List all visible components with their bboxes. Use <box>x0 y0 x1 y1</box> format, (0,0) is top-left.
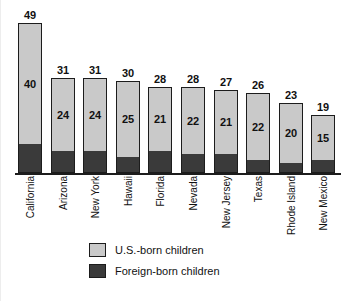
legend-swatch-foreign-born-icon <box>89 264 106 278</box>
bar-column: 2721 <box>214 76 238 173</box>
bar-total-label: 31 <box>89 64 101 76</box>
legend-label-foreign-born: Foreign-born children <box>115 265 220 278</box>
bar-column: 2622 <box>246 79 270 173</box>
x-axis-label-text: California <box>25 176 36 218</box>
x-axis-label-text: Rhode Island <box>286 176 297 235</box>
x-axis-label: Texas <box>246 176 270 238</box>
bar-stack: 24 <box>83 78 107 173</box>
bar-segment-us-born: 24 <box>52 79 74 151</box>
bar-segment-label-us-born: 24 <box>84 109 106 121</box>
bar-segment-label-us-born: 25 <box>117 113 139 125</box>
x-axis-label: New Jersey <box>214 176 238 238</box>
x-axis-label: Hawaii <box>116 176 140 238</box>
x-axis-label-text: Arizona <box>58 176 69 210</box>
bar-segment-label-us-born: 40 <box>19 78 41 90</box>
bar-total-label: 31 <box>57 64 69 76</box>
bar-column: 3124 <box>83 64 107 173</box>
legend-item-us-born: U.S.-born children <box>89 243 220 257</box>
bar-total-label: 23 <box>285 89 297 101</box>
bar-column: 4940 <box>18 9 42 173</box>
bar-segment-us-born: 40 <box>19 24 41 144</box>
bar-segment-foreign-born <box>312 160 334 172</box>
bar-stack: 21 <box>148 87 172 173</box>
x-axis-label: Arizona <box>51 176 75 238</box>
legend-label-us-born: U.S.-born children <box>115 244 204 257</box>
x-axis-line <box>15 173 341 175</box>
bar-segment-label-us-born: 20 <box>280 127 302 139</box>
bar-segment-foreign-born <box>19 144 41 172</box>
bar-stack: 24 <box>51 78 75 173</box>
bar-segment-label-us-born: 21 <box>149 113 171 125</box>
bar-segment-foreign-born <box>52 151 74 172</box>
bar-segment-label-us-born: 21 <box>215 116 237 128</box>
x-axis-label: Rhode Island <box>279 176 303 238</box>
bar-total-label: 27 <box>220 76 232 88</box>
bar-segment-us-born: 22 <box>247 94 269 160</box>
bar-segment-foreign-born <box>149 151 171 172</box>
bar-stack: 22 <box>246 93 270 173</box>
bar-total-label: 28 <box>154 73 166 85</box>
x-axis-label: New York <box>83 176 107 238</box>
chart-legend: U.S.-born children Foreign-born children <box>89 243 220 278</box>
bar-column: 3124 <box>51 64 75 173</box>
bar-stack: 15 <box>311 115 335 173</box>
x-axis-label-text: Hawaii <box>123 176 134 206</box>
bar-segment-label-us-born: 24 <box>52 109 74 121</box>
bar-segment-us-born: 21 <box>215 91 237 154</box>
plot-area: 4940312431243025282128222721262223201915 <box>15 12 339 173</box>
bar-segment-foreign-born <box>117 157 139 172</box>
bar-segment-us-born: 25 <box>117 82 139 157</box>
x-axis-label-text: Nevada <box>188 176 199 210</box>
bar-stack: 21 <box>214 90 238 173</box>
bar-column: 2821 <box>148 73 172 173</box>
stacked-bar-chart: 4940312431243025282128222721262223201915… <box>0 0 350 301</box>
bar-segment-foreign-born <box>280 163 302 172</box>
bar-segment-foreign-born <box>247 160 269 172</box>
bar-segment-us-born: 22 <box>182 88 204 154</box>
x-axis-label: Nevada <box>181 176 205 238</box>
bar-stack: 22 <box>181 87 205 173</box>
x-axis-label-text: Texas <box>253 176 264 202</box>
bar-stack: 25 <box>116 81 140 173</box>
bar-total-label: 28 <box>187 73 199 85</box>
bar-stack: 20 <box>279 103 303 173</box>
x-axis-label-text: Florida <box>155 176 166 207</box>
legend-item-foreign-born: Foreign-born children <box>89 264 220 278</box>
bar-segment-us-born: 20 <box>280 104 302 163</box>
bar-segment-foreign-born <box>215 154 237 172</box>
bar-total-label: 30 <box>122 67 134 79</box>
bar-segment-foreign-born <box>84 151 106 172</box>
bar-total-label: 49 <box>24 9 36 21</box>
bar-segment-us-born: 24 <box>84 79 106 151</box>
bar-total-label: 26 <box>252 79 264 91</box>
bar-segment-label-us-born: 22 <box>247 121 269 133</box>
x-axis-label-text: New Jersey <box>221 176 232 228</box>
x-axis-label: New Mexico <box>311 176 335 238</box>
bar-segment-label-us-born: 22 <box>182 115 204 127</box>
bar-column: 2320 <box>279 89 303 173</box>
bar-stack: 40 <box>18 23 42 173</box>
legend-swatch-us-born-icon <box>89 243 106 257</box>
x-axis-label-text: New Mexico <box>318 176 329 230</box>
bar-total-label: 19 <box>317 101 329 113</box>
x-axis-label: Florida <box>148 176 172 238</box>
bar-column: 3025 <box>116 67 140 173</box>
x-axis-label-text: New York <box>90 176 101 218</box>
bar-column: 1915 <box>311 101 335 173</box>
x-axis-category-labels: CaliforniaArizonaNew YorkHawaiiFloridaNe… <box>15 176 339 238</box>
bar-segment-label-us-born: 15 <box>312 132 334 144</box>
bar-column: 2822 <box>181 73 205 173</box>
x-axis-label: California <box>18 176 42 238</box>
bar-segment-foreign-born <box>182 154 204 172</box>
bar-segment-us-born: 15 <box>312 116 334 160</box>
bar-segment-us-born: 21 <box>149 88 171 151</box>
